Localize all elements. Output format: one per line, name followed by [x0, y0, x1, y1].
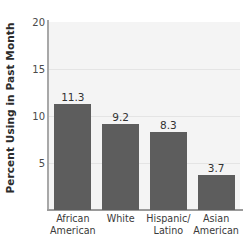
x-category-label: White: [97, 213, 145, 225]
y-tick-label: 15: [3, 64, 45, 75]
y-tick-label: 20: [3, 17, 45, 28]
bar: [54, 104, 91, 210]
bar-chart-figure: Percent Using in Past Month 5101520 11.3…: [0, 0, 248, 251]
x-category-label-line1: Asian: [203, 213, 229, 224]
x-category-label-line2: American: [192, 225, 240, 237]
bar-value-label: 11.3: [45, 91, 101, 103]
x-category-label-line1: White: [107, 213, 135, 224]
y-tick-label: 5: [3, 158, 45, 169]
x-category-label-line2: American: [49, 225, 97, 237]
x-category-label: Hispanic/Latino: [145, 213, 193, 236]
bar-value-label: 8.3: [140, 119, 196, 131]
x-category-label-line1: Hispanic/: [146, 213, 190, 224]
x-category-label-line2: Latino: [145, 225, 193, 237]
x-category-label: AfricanAmerican: [49, 213, 97, 236]
x-category-label: AsianAmerican: [192, 213, 240, 236]
y-tick-label: 10: [3, 111, 45, 122]
bar-value-label: 3.7: [188, 162, 244, 174]
bar: [198, 175, 235, 210]
gridline: [49, 69, 240, 70]
x-category-label-line1: African: [56, 213, 89, 224]
bar: [150, 132, 187, 210]
y-axis-title: Percent Using in Past Month: [0, 0, 18, 215]
bar: [102, 124, 139, 210]
